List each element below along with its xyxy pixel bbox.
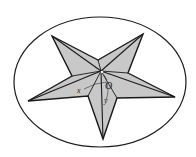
origin-label: O [105, 80, 112, 91]
apex-marker [100, 70, 103, 73]
x-axis-label: x [76, 86, 81, 95]
star-diagram: O x y [0, 0, 196, 157]
y-axis-label: y [103, 96, 108, 105]
